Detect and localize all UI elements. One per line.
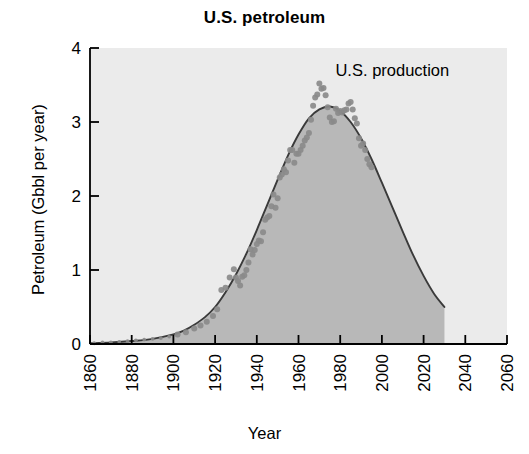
svg-text:1960: 1960 (290, 354, 309, 392)
svg-text:2: 2 (72, 187, 81, 206)
svg-text:1: 1 (72, 261, 81, 280)
svg-text:1900: 1900 (164, 354, 183, 392)
svg-text:1920: 1920 (206, 354, 225, 392)
svg-text:1940: 1940 (248, 354, 267, 392)
svg-text:U.S. production: U.S. production (335, 61, 449, 79)
annotation-us-production: U.S. production (335, 61, 449, 79)
svg-text:1880: 1880 (123, 354, 142, 392)
svg-text:4: 4 (72, 39, 81, 58)
svg-text:1980: 1980 (331, 354, 350, 392)
svg-text:2020: 2020 (415, 354, 434, 392)
svg-text:0: 0 (72, 335, 81, 354)
svg-text:1860: 1860 (81, 354, 100, 392)
svg-text:2040: 2040 (456, 354, 475, 392)
chart-figure: U.S. petroleum Petroleum (Gbbl per year)… (0, 0, 529, 454)
plot-area: 01234 1860188019001920194019601980200020… (0, 0, 529, 454)
svg-text:3: 3 (72, 113, 81, 132)
svg-text:2000: 2000 (373, 354, 392, 392)
svg-text:2060: 2060 (498, 354, 517, 392)
